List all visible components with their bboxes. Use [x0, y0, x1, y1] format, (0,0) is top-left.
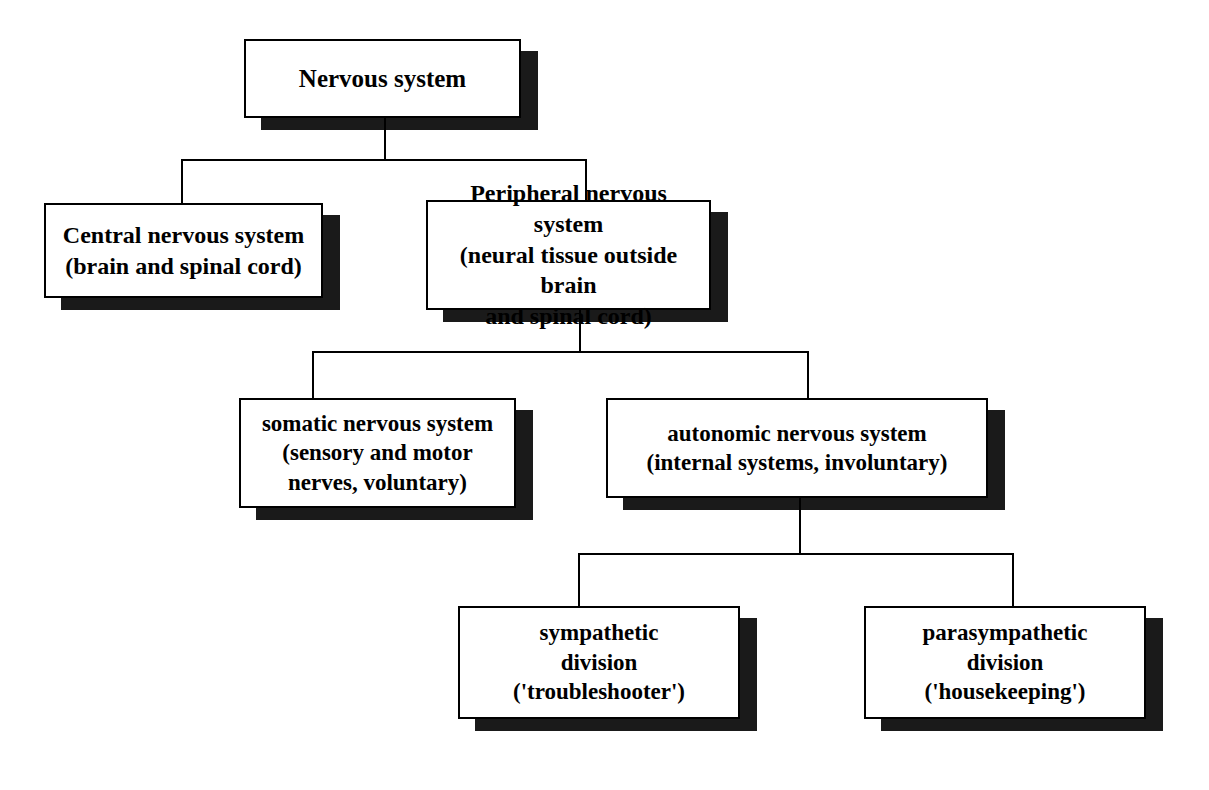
- node-label-parasympathetic-division: parasympathetic division ('housekeeping'…: [917, 618, 1094, 706]
- connector-to-somatic: [312, 351, 314, 398]
- node-label-nervous-system: Nervous system: [293, 63, 472, 95]
- node-label-peripheral-nervous-system: Peripheral nervous system (neural tissue…: [428, 178, 709, 332]
- node-label-somatic-nervous-system: somatic nervous system (sensory and moto…: [256, 409, 499, 497]
- connector-to-sympathetic: [578, 553, 580, 607]
- connector-to-parasympathetic: [1012, 553, 1014, 607]
- node-nervous-system[interactable]: Nervous system: [244, 39, 521, 118]
- connector-pns-bar: [312, 351, 809, 353]
- node-label-autonomic-nervous-system: autonomic nervous system (internal syste…: [641, 419, 954, 478]
- connector-to-autonomic: [807, 351, 809, 398]
- node-autonomic-nervous-system[interactable]: autonomic nervous system (internal syste…: [606, 398, 988, 498]
- node-somatic-nervous-system[interactable]: somatic nervous system (sensory and moto…: [239, 398, 516, 508]
- connector-to-cns: [181, 159, 183, 204]
- connector-root-stem: [384, 118, 386, 160]
- node-central-nervous-system[interactable]: Central nervous system (brain and spinal…: [44, 203, 323, 298]
- node-parasympathetic-division[interactable]: parasympathetic division ('housekeeping'…: [864, 606, 1146, 719]
- connector-root-bar: [181, 159, 587, 161]
- node-label-sympathetic-division: sympathetic division ('troubleshooter'): [507, 618, 691, 706]
- connector-autonomic-stem: [799, 498, 801, 554]
- node-peripheral-nervous-system[interactable]: Peripheral nervous system (neural tissue…: [426, 200, 711, 310]
- connector-autonomic-bar: [578, 553, 1014, 555]
- node-label-central-nervous-system: Central nervous system (brain and spinal…: [57, 220, 310, 281]
- node-sympathetic-division[interactable]: sympathetic division ('troubleshooter'): [458, 606, 740, 719]
- diagram-canvas: Nervous system Central nervous system (b…: [0, 0, 1209, 790]
